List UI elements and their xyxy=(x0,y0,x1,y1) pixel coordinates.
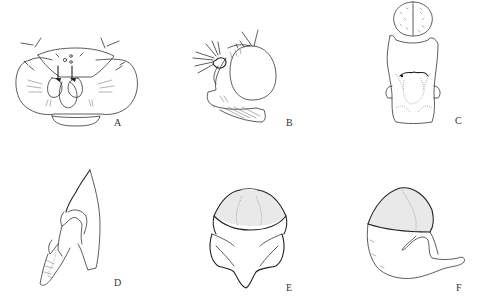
panel-label-f: F xyxy=(456,283,462,293)
panel-label-b: B xyxy=(286,118,293,128)
dorsal-structure-drawing xyxy=(320,0,477,150)
head-frontal-drawing xyxy=(0,0,160,150)
panel-label-c: C xyxy=(455,116,462,126)
panel-label-a: A xyxy=(114,118,121,128)
panel-f: F xyxy=(320,150,477,300)
panel-a: A xyxy=(0,0,160,150)
lateral-structure-drawing xyxy=(320,150,477,300)
panel-e: E xyxy=(160,150,320,300)
head-lateral-drawing xyxy=(160,0,320,150)
panel-c: C xyxy=(320,0,477,150)
genitalia-lateral-drawing xyxy=(0,150,160,300)
ventral-structure-drawing xyxy=(160,150,320,300)
panel-label-d: D xyxy=(114,278,121,288)
panel-b: B xyxy=(160,0,320,150)
panel-d: D xyxy=(0,150,160,300)
panel-label-e: E xyxy=(286,283,292,293)
